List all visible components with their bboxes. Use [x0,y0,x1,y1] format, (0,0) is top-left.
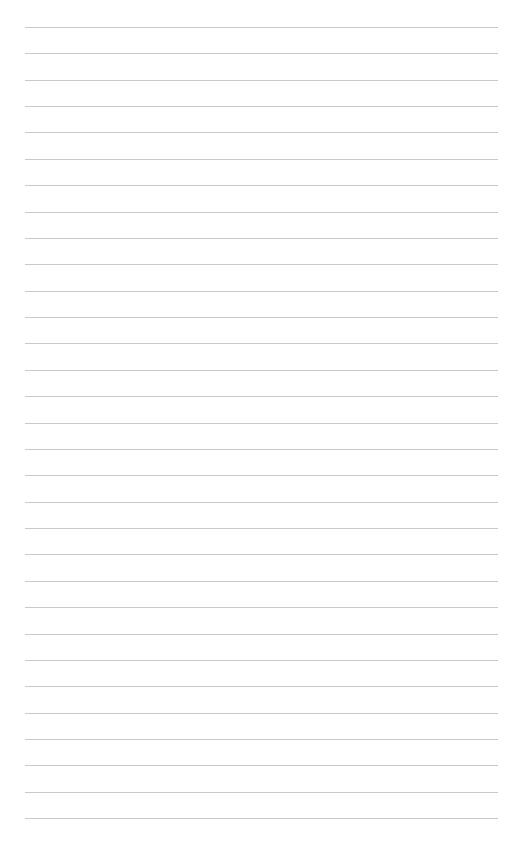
ruled-line [25,132,498,133]
ruled-line [25,554,498,555]
ruled-line [25,264,498,265]
ruled-line [25,581,498,582]
ruled-line [25,185,498,186]
ruled-line [25,80,498,81]
ruled-line [25,343,498,344]
ruled-line [25,634,498,635]
ruled-line [25,291,498,292]
ruled-line [25,106,498,107]
lined-paper-page [0,0,525,863]
ruled-line [25,449,498,450]
ruled-line [25,317,498,318]
ruled-line [25,396,498,397]
ruled-line [25,502,498,503]
ruled-line [25,739,498,740]
ruled-line [25,713,498,714]
ruled-line [25,370,498,371]
ruled-line [25,475,498,476]
ruled-line [25,238,498,239]
ruled-line [25,607,498,608]
ruled-line [25,818,498,819]
ruled-line [25,212,498,213]
ruled-line [25,53,498,54]
ruled-line [25,686,498,687]
ruled-line [25,528,498,529]
ruled-line [25,765,498,766]
ruled-line [25,27,498,28]
ruled-line [25,159,498,160]
ruled-line [25,792,498,793]
ruled-line [25,660,498,661]
ruled-line [25,423,498,424]
